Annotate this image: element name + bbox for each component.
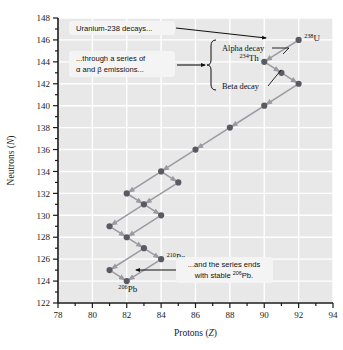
nuclide-point[interactable] [141,245,147,251]
x-axis-title-text: Protons ( [174,328,209,339]
y-tick-label: 134 [37,167,51,177]
x-tick-label: 88 [225,310,235,320]
y-tick-label: 136 [37,145,51,155]
nuclide-point[interactable] [158,168,164,174]
y-tick-label: 138 [37,123,51,133]
x-tick-label: 94 [329,310,339,320]
x-tick-label: 78 [54,310,64,320]
nuclide-point[interactable] [192,146,198,152]
x-tick-label: 86 [191,310,201,320]
x-axis-ticks: 788082848688909294 [54,303,339,320]
y-tick-label: 130 [37,211,51,221]
nuclide-point[interactable] [124,190,130,196]
x-tick-label: 84 [157,310,167,320]
nuclide-point[interactable] [175,179,181,185]
y-tick-label: 144 [37,57,51,67]
y-tick-label: 128 [37,232,51,242]
callout-bottom-line2: with stable 206Pb. [194,270,253,280]
beta-decay-label: Beta decay [222,82,260,91]
x-tick-label: 90 [260,310,270,320]
nuclide-point-210Po[interactable] [158,256,164,262]
nuclide-point[interactable] [141,201,147,207]
y-axis-ticks: 1221241261281301321341361381401421441461… [37,13,59,308]
y-axis-title: Neutrons (N) [6,136,17,186]
y-tick-label: 148 [37,13,51,23]
nuclide-point-238U[interactable] [296,37,302,43]
y-tick-label: 126 [37,254,51,264]
mass-number: 206 [118,283,127,290]
x-tick-label: 82 [122,310,131,320]
decay-series-chart: 238U234Th210Po206Pb122124126128130132134… [0,0,343,350]
nuclide-point-234Th[interactable] [261,59,267,65]
element-symbol: Th [249,53,259,63]
callout-bottom-line1: ...and the series ends [188,260,261,269]
y-axis-title-paren: ) [6,136,17,139]
y-tick-label: 122 [37,298,51,308]
callout-middle-line2: α and β emissions... [76,65,144,74]
callout-middle-line1: ...through a series of [76,54,146,63]
alpha-decay-label: Alpha decay [222,44,265,53]
x-axis-title: Protons (Z) [174,328,217,339]
y-tick-label: 140 [37,101,51,111]
callout-bottom-mass: 206 [233,270,242,276]
nuclide-point[interactable] [106,267,112,273]
callout-bottom-pre: with stable [194,271,233,280]
chart-canvas: 238U234Th210Po206Pb122124126128130132134… [0,0,343,350]
nuclide-point[interactable] [261,103,267,109]
nuclide-point[interactable] [106,223,112,229]
y-axis-title-text: Neutrons ( [6,145,17,185]
nuclide-point[interactable] [124,234,130,240]
y-tick-label: 146 [37,35,51,45]
nuclide-point[interactable] [158,212,164,218]
callout-bottom-post: Pb. [242,271,253,280]
mass-number: 210 [167,251,176,258]
nuclide-point[interactable] [227,125,233,131]
mass-number: 238 [304,31,313,38]
y-tick-label: 124 [37,276,51,286]
element-symbol: Pb [128,284,138,294]
nuclide-point[interactable] [296,81,302,87]
x-axis-title-paren: ) [214,328,217,339]
x-tick-label: 92 [294,310,303,320]
callout-top-text: Uranium-238 decays... [76,24,152,33]
y-tick-label: 132 [37,189,51,199]
y-tick-label: 142 [37,79,51,89]
x-tick-label: 80 [88,310,98,320]
element-symbol: U [313,33,320,43]
